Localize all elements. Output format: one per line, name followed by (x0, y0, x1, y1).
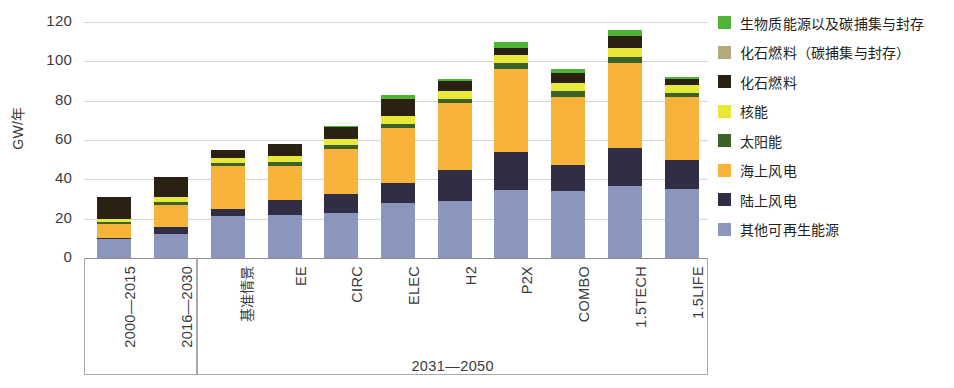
bar-segment-4 (551, 83, 585, 91)
bar-2000—2015[interactable] (97, 197, 131, 258)
legend-item-6[interactable]: 陆上风电 (718, 185, 954, 215)
bar-segment-4 (438, 91, 472, 99)
bar-segment-1 (438, 170, 472, 201)
bar-segment-0 (438, 201, 472, 258)
bar-segment-0 (665, 189, 699, 258)
bar-segment-0 (97, 239, 131, 258)
bar-segment-0 (608, 186, 642, 258)
bar-ELEC[interactable] (381, 95, 415, 258)
bar-segment-1 (494, 152, 528, 190)
bar-segment-1 (551, 165, 585, 192)
bar-segment-1 (211, 209, 245, 216)
bar-segment-2 (211, 166, 245, 209)
bar-2016—2030[interactable] (154, 177, 188, 258)
bar-segment-5 (268, 144, 302, 156)
legend-item-2[interactable]: 化石燃料 (718, 67, 954, 97)
legend-label: 海上风电 (740, 160, 797, 180)
y-tick-0: 0 (26, 248, 72, 265)
legend-item-0[interactable]: 生物质能源以及碳捕集与封存 (718, 8, 954, 38)
bar-segment-1 (608, 148, 642, 186)
bar-1.5LIFE[interactable] (665, 77, 699, 258)
legend-swatch-beccs (718, 16, 731, 29)
bar-CIRC[interactable] (324, 126, 358, 258)
legend-swatch-onshore-wind (718, 193, 731, 206)
legend-swatch-fossil (718, 75, 731, 88)
legend-item-3[interactable]: 核能 (718, 97, 954, 127)
plot-area (84, 22, 708, 258)
legend-label: 陆上风电 (740, 190, 797, 210)
bar-segment-4 (381, 116, 415, 124)
bar-segment-4 (494, 55, 528, 63)
legend-label: 生物质能源以及碳捕集与封存 (740, 13, 925, 33)
bar-segment-5 (494, 48, 528, 56)
bar-segment-0 (324, 213, 358, 258)
bar-segment-0 (268, 215, 302, 258)
bar-segment-0 (154, 234, 188, 258)
legend-swatch-offshore-wind (718, 164, 731, 177)
bar-segment-0 (211, 216, 245, 258)
bar-segment-2 (154, 205, 188, 227)
bar-COMBO[interactable] (551, 69, 585, 258)
bar-segment-5 (211, 150, 245, 158)
legend-item-4[interactable]: 太阳能 (718, 126, 954, 156)
bar-基准情景[interactable] (211, 150, 245, 258)
bar-segment-2 (494, 69, 528, 152)
group-label: 2031—2050 (197, 358, 708, 374)
y-axis-title: GW/年 (7, 83, 27, 173)
legend: 生物质能源以及碳捕集与封存化石燃料（碳捕集与封存）化石燃料核能太阳能海上风电陆上… (718, 8, 954, 244)
bar-segment-5 (438, 81, 472, 91)
bar-segment-1 (381, 183, 415, 203)
legend-swatch-fossil-ccs (718, 46, 731, 59)
bar-segment-5 (551, 73, 585, 83)
legend-item-5[interactable]: 海上风电 (718, 156, 954, 186)
bar-segment-5 (608, 36, 642, 48)
legend-label: 化石燃料（碳捕集与封存） (740, 42, 910, 62)
legend-label: 核能 (740, 101, 768, 121)
y-tick-40: 40 (26, 169, 72, 186)
y-tick-20: 20 (26, 209, 72, 226)
y-tick-100: 100 (26, 51, 72, 68)
bar-segment-2 (551, 97, 585, 165)
bar-segment-1 (324, 194, 358, 213)
stacked-bar-chart: GW/年 120100806040200 2000—20152016—2030基… (0, 0, 954, 388)
bar-segment-0 (494, 190, 528, 258)
group-box-0 (84, 258, 197, 375)
y-tick-120: 120 (26, 12, 72, 29)
bar-segment-5 (97, 197, 131, 219)
bar-segment-4 (665, 85, 699, 93)
bar-segment-5 (381, 99, 415, 117)
legend-item-7[interactable]: 其他可再生能源 (718, 215, 954, 245)
bar-segment-2 (268, 166, 302, 200)
legend-item-1[interactable]: 化石燃料（碳捕集与封存） (718, 38, 954, 68)
bar-segment-4 (608, 48, 642, 58)
bar-segment-2 (324, 149, 358, 194)
bar-P2X[interactable] (494, 42, 528, 258)
legend-label: 化石燃料 (740, 72, 797, 92)
gridline-120 (84, 22, 708, 23)
bar-segment-0 (551, 191, 585, 258)
bar-segment-1 (268, 200, 302, 215)
bar-segment-5 (154, 177, 188, 197)
legend-swatch-solar (718, 134, 731, 147)
bar-segment-0 (381, 203, 415, 258)
bar-segment-2 (97, 224, 131, 238)
bar-segment-1 (665, 160, 699, 190)
y-tick-60: 60 (26, 130, 72, 147)
legend-swatch-other-renewables (718, 223, 731, 236)
bar-EE[interactable] (268, 144, 302, 258)
legend-label: 太阳能 (740, 131, 783, 151)
bar-1.5TECH[interactable] (608, 30, 642, 258)
bar-segment-5 (324, 127, 358, 139)
bar-H2[interactable] (438, 79, 472, 258)
bar-segment-1 (154, 227, 188, 235)
bar-segment-2 (438, 103, 472, 170)
bar-segment-2 (665, 97, 699, 160)
bar-segment-2 (608, 63, 642, 148)
bar-segment-2 (381, 128, 415, 183)
y-tick-80: 80 (26, 91, 72, 108)
legend-label: 其他可再生能源 (740, 219, 839, 239)
legend-swatch-nuclear (718, 105, 731, 118)
